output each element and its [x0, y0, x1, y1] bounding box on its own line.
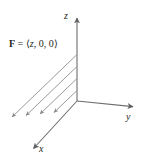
x-axis-label: x [39, 144, 43, 154]
y-axis-line [77, 101, 133, 107]
vector-field-figure: F = ⟨z, 0, 0⟩ z y x [0, 0, 145, 166]
axes-and-vectors-svg [0, 0, 145, 166]
field-equals: = [15, 38, 26, 49]
field-close-bracket: ⟩ [54, 38, 58, 49]
field-equation-label: F = ⟨z, 0, 0⟩ [9, 39, 58, 49]
field-vector-4 [54, 91, 77, 113]
field-vector-1 [12, 55, 77, 118]
field-vector-2 [26, 67, 77, 116]
x-axis-line [34, 101, 78, 149]
z-axis-label: z [64, 11, 68, 21]
y-axis-label: y [126, 112, 130, 122]
